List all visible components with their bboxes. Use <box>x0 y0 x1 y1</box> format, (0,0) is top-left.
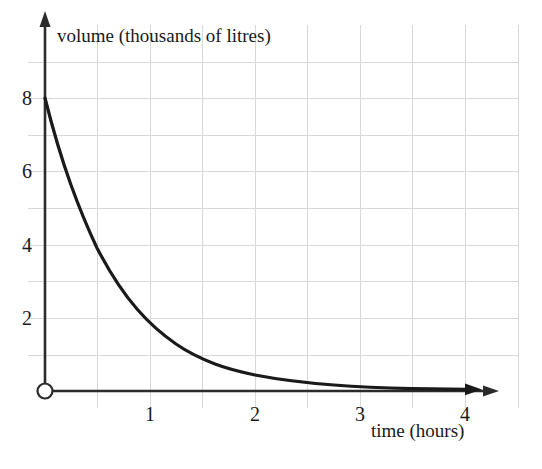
y-tick-label-8: 8 <box>10 88 32 108</box>
plot-canvas <box>0 0 542 469</box>
x-axis-arrowhead <box>483 386 499 397</box>
graph-figure: volume (thousands of litres) time (hours… <box>0 0 542 469</box>
volume-decay-curve <box>45 98 468 389</box>
x-tick-label-4: 4 <box>454 404 476 424</box>
x-tick-label-3: 3 <box>349 404 371 424</box>
axes <box>38 11 500 399</box>
curve-end-arrowhead <box>465 384 482 396</box>
x-tick-label-1: 1 <box>139 404 161 424</box>
y-tick-label-2: 2 <box>10 308 32 328</box>
y-tick-label-4: 4 <box>10 235 32 255</box>
data-curve-group <box>45 98 482 395</box>
y-axis-title: volume (thousands of litres) <box>57 26 271 45</box>
x-tick-label-2: 2 <box>244 404 266 424</box>
y-tick-label-6: 6 <box>10 161 32 181</box>
y-axis-arrowhead <box>40 11 51 27</box>
grid-lines-horizontal <box>28 62 518 355</box>
grid-lines <box>28 25 518 408</box>
origin-marker <box>38 384 53 399</box>
grid-lines-vertical <box>97 25 518 408</box>
x-axis-title: time (hours) <box>371 421 464 440</box>
